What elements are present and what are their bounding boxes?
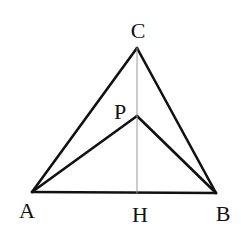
segment-BC bbox=[137, 48, 216, 193]
label-P: P bbox=[114, 99, 126, 124]
triangle-diagram: C P A H B bbox=[0, 0, 241, 233]
label-H: H bbox=[132, 202, 148, 227]
label-B: B bbox=[216, 201, 231, 226]
segment-BP bbox=[137, 116, 216, 193]
label-A: A bbox=[19, 198, 35, 223]
segment-AP bbox=[32, 116, 137, 192]
segment-AB bbox=[32, 192, 216, 193]
label-C: C bbox=[131, 18, 146, 43]
